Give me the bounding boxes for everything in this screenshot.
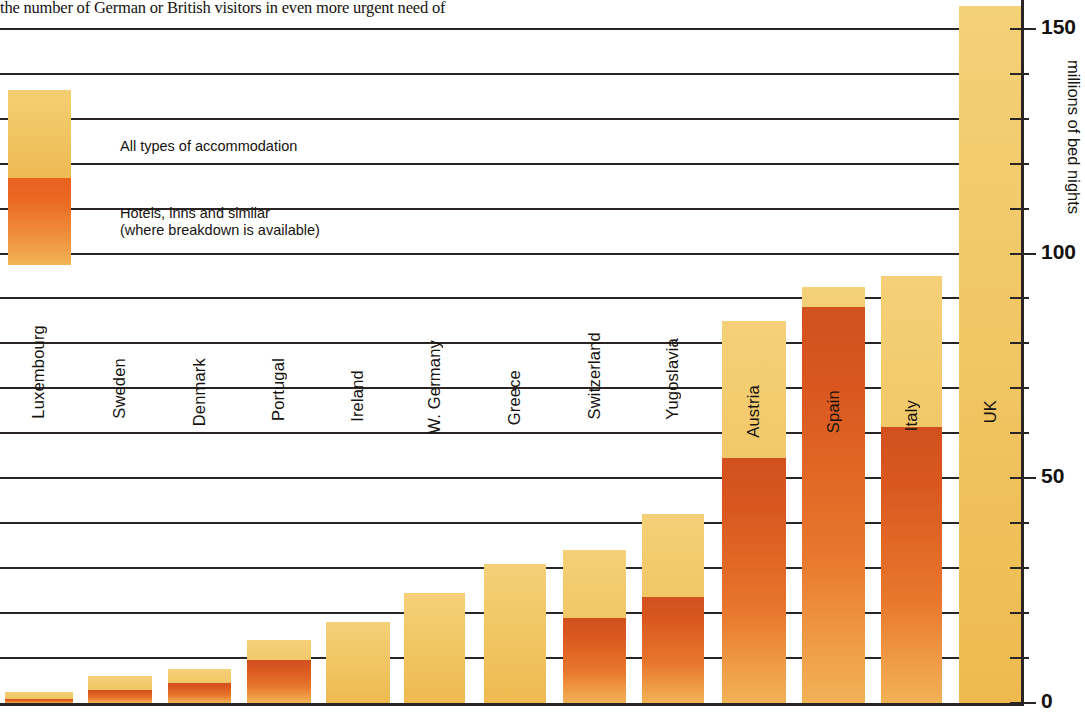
bar-segment-all-accommodation	[959, 6, 1022, 703]
y-axis-title: millions of bed nights	[1064, 60, 1083, 214]
gridline-60	[786, 432, 802, 434]
gridline-30	[704, 567, 722, 569]
bar-italy	[881, 276, 942, 703]
bar-label-denmark: Denmark	[190, 358, 209, 426]
bar-luxembourg	[5, 692, 73, 703]
bar-segment-all-accommodation	[326, 622, 390, 703]
gridline-20	[0, 612, 404, 614]
gridline-50	[0, 477, 722, 479]
gridline-10	[546, 657, 563, 659]
bar-denmark	[168, 669, 231, 703]
y-tick-10	[1010, 657, 1029, 659]
gridline-70	[942, 387, 959, 389]
legend: All types of accommodation Hotels, inns …	[8, 90, 338, 270]
gridline-10	[942, 657, 959, 659]
bar-yugoslavia	[642, 514, 704, 703]
gridline-30	[865, 567, 881, 569]
gridline-70	[865, 387, 881, 389]
gridline-10	[704, 657, 722, 659]
bar-segment-all-accommodation	[404, 593, 465, 703]
gridline-50	[942, 477, 959, 479]
bar-segment-hotels	[247, 660, 311, 703]
gridline-20	[704, 612, 722, 614]
gridline-40	[704, 522, 722, 524]
bar-segment-hotels	[642, 597, 704, 703]
bar-label-greece: Greece	[505, 370, 524, 425]
y-tick-90	[1010, 297, 1029, 299]
gridline-60	[942, 432, 959, 434]
y-tick-130	[1010, 118, 1029, 120]
y-tick-120	[1010, 163, 1029, 165]
gridline-80	[0, 342, 722, 344]
bar-segment-hotels	[802, 307, 865, 703]
y-tick-30	[1010, 567, 1029, 569]
bar-segment-hotels	[722, 458, 786, 703]
y-axis-line	[1021, 0, 1024, 706]
bar-label-luxembourg: Luxembourg	[29, 325, 48, 419]
y-tick-40	[1010, 522, 1029, 524]
bar-segment-hotels	[168, 683, 231, 703]
gridline-140	[0, 73, 959, 75]
gridline-40	[0, 522, 642, 524]
bar-label-portugal: Portugal	[269, 358, 288, 421]
y-tick-140	[1010, 73, 1029, 75]
gridline-10	[311, 657, 326, 659]
y-tick-60	[1010, 432, 1029, 434]
bar-portugal	[247, 640, 311, 703]
gridline-50	[786, 477, 802, 479]
gridline-10	[390, 657, 404, 659]
gridline-10	[865, 657, 881, 659]
gridline-90	[0, 297, 802, 299]
y-tick-20	[1010, 612, 1029, 614]
bar-greece	[484, 564, 546, 703]
bar-segment-hotels	[881, 427, 942, 703]
gridline-20	[626, 612, 642, 614]
gridline-20	[786, 612, 802, 614]
bar-label-w-germany: W. Germany	[425, 340, 444, 434]
gridline-40	[786, 522, 802, 524]
bar-label-ireland: Ireland	[348, 370, 367, 422]
chart-page: the number of German or British visitors…	[0, 0, 1085, 725]
gridline-10	[0, 657, 247, 659]
gridline-20	[942, 612, 959, 614]
gridline-50	[865, 477, 881, 479]
gridline-90	[865, 297, 881, 299]
y-tick-label-150: 150	[1041, 15, 1076, 39]
gridline-80	[865, 342, 881, 344]
gridline-80	[942, 342, 959, 344]
gridline-60	[0, 432, 722, 434]
gridline-150	[0, 28, 959, 30]
gridline-30	[546, 567, 563, 569]
legend-label-hotels: Hotels, inns and similar (where breakdow…	[120, 205, 320, 239]
gridline-40	[865, 522, 881, 524]
y-tick-70	[1010, 387, 1029, 389]
bar-uk	[959, 6, 1022, 703]
legend-label-all-accommodation: All types of accommodation	[120, 138, 297, 155]
bar-ireland	[326, 622, 390, 703]
bar-switzerland	[563, 550, 626, 703]
bar-label-austria: Austria	[744, 385, 763, 438]
bar-label-spain: Spain	[824, 390, 843, 433]
x-axis-line	[0, 703, 1022, 706]
y-tick-label-50: 50	[1041, 464, 1064, 488]
gridline-70	[786, 387, 802, 389]
bar-spain	[802, 287, 865, 703]
legend-swatch	[8, 90, 71, 265]
bar-segment-hotels	[563, 618, 626, 703]
legend-swatch-hotels	[8, 178, 71, 265]
bar-label-sweden: Sweden	[110, 358, 129, 419]
gridline-20	[465, 612, 484, 614]
gridline-20	[546, 612, 563, 614]
y-tick-label-100: 100	[1041, 240, 1076, 264]
bar-austria	[722, 321, 786, 703]
gridline-20	[865, 612, 881, 614]
bar-label-yugoslavia: Yugoslavia	[663, 338, 682, 420]
bar-sweden	[88, 676, 152, 703]
legend-swatch-all	[8, 90, 71, 178]
bar-w-germany	[404, 593, 465, 703]
y-tick-80	[1010, 342, 1029, 344]
gridline-30	[0, 567, 484, 569]
bar-segment-hotels	[88, 690, 152, 703]
y-tick-label-0: 0	[1041, 689, 1053, 713]
gridline-30	[942, 567, 959, 569]
